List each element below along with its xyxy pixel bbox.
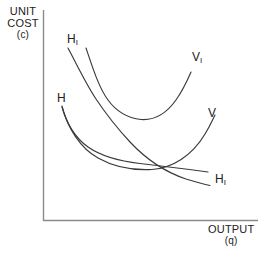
curves-group bbox=[62, 48, 215, 186]
curve-label-hi-upper-base: H bbox=[67, 32, 76, 46]
curve-label-hi-upper: HI bbox=[67, 33, 78, 48]
curve-label-vi: VI bbox=[192, 51, 202, 66]
y-axis-title-line2: COST bbox=[7, 17, 38, 29]
x-axis-title: OUTPUT (q) bbox=[208, 224, 254, 247]
curve-vi bbox=[86, 48, 191, 120]
curve-label-h-base: H bbox=[57, 91, 66, 105]
cost-curve-figure: UNIT COST (c) OUTPUT (q) HI VI H V HI bbox=[0, 0, 270, 259]
curve-h bbox=[62, 106, 208, 172]
x-axis-title-text: OUTPUT bbox=[208, 223, 254, 235]
y-axis-title: UNIT COST (c) bbox=[4, 6, 42, 41]
curve-label-hi-lower: HI bbox=[215, 173, 226, 188]
curve-label-vi-base: V bbox=[192, 50, 200, 64]
y-axis-title-line1: UNIT bbox=[10, 5, 36, 17]
curve-label-hi-upper-subscript: I bbox=[76, 38, 78, 47]
curve-label-v-base: V bbox=[208, 106, 216, 120]
y-axis-unit: (c) bbox=[4, 30, 42, 41]
curve-label-hi-lower-subscript: I bbox=[224, 178, 226, 187]
curve-hi-upper bbox=[68, 48, 210, 186]
curve-v bbox=[62, 107, 215, 170]
x-axis-unit: (q) bbox=[208, 236, 254, 247]
curve-label-v: V bbox=[208, 107, 216, 120]
curve-label-vi-subscript: I bbox=[200, 56, 202, 65]
curve-label-hi-lower-base: H bbox=[215, 172, 224, 186]
curve-label-h: H bbox=[57, 92, 66, 105]
